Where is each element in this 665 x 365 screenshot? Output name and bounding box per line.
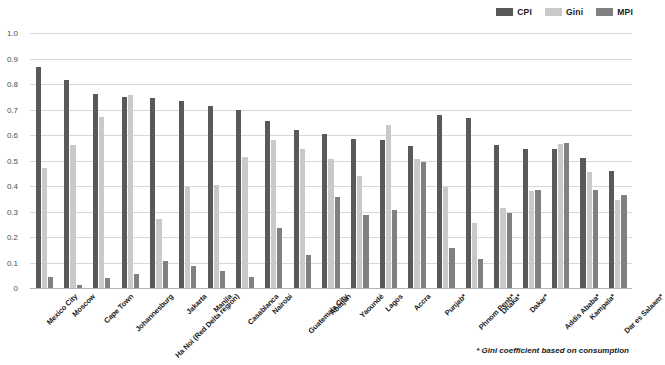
bar-gini[interactable] (443, 187, 448, 288)
legend-item-mpi[interactable]: MPI (596, 8, 633, 17)
bar-cpi[interactable] (150, 98, 155, 288)
bar-gini[interactable] (558, 144, 563, 288)
legend-swatch-icon (545, 8, 562, 16)
legend-swatch-icon (496, 8, 513, 16)
y-axis-tick-label: 0.1 (0, 258, 18, 267)
legend-item-cpi[interactable]: CPI (496, 8, 532, 17)
bar-group (517, 33, 546, 288)
bar-cpi[interactable] (322, 134, 327, 288)
bar-group (489, 33, 518, 288)
bar-cpi[interactable] (494, 145, 499, 288)
bar-mpi[interactable] (507, 213, 512, 288)
legend-swatch-icon (596, 8, 613, 16)
bar-cpi[interactable] (437, 115, 442, 288)
plot-area: 00.10.20.30.40.50.60.70.80.91.0 (30, 33, 632, 288)
bar-mpi[interactable] (77, 285, 82, 288)
bar-gini[interactable] (472, 223, 477, 288)
bar-group (30, 33, 59, 288)
bar-gini[interactable] (99, 117, 104, 288)
bar-group (87, 33, 116, 288)
bar-cpi[interactable] (208, 106, 213, 288)
bar-cpi[interactable] (93, 94, 98, 288)
x-axis-label-cell: Accra (403, 290, 432, 360)
bar-mpi[interactable] (621, 195, 626, 288)
bar-gini[interactable] (414, 159, 419, 288)
x-axis-label-cell: Nairobi (259, 290, 288, 360)
bar-cpi[interactable] (236, 110, 241, 289)
bar-mpi[interactable] (306, 255, 311, 288)
bar-gini[interactable] (328, 159, 333, 288)
y-axis-tick-label: 0.8 (0, 80, 18, 89)
bar-mpi[interactable] (249, 277, 254, 288)
bar-cpi[interactable] (294, 130, 299, 288)
x-axis-label-cell: Moscow (59, 290, 88, 360)
bar-gini[interactable] (529, 191, 534, 288)
bar-group (460, 33, 489, 288)
bar-gini[interactable] (500, 208, 505, 288)
bar-cpi[interactable] (609, 171, 614, 288)
bar-cpi[interactable] (265, 121, 270, 288)
y-axis-tick-label: 0 (0, 284, 18, 293)
bar-mpi[interactable] (105, 278, 110, 288)
bar-gini[interactable] (587, 172, 592, 288)
x-axis-label-cell: Cape Town (87, 290, 116, 360)
bar-mpi[interactable] (163, 261, 168, 288)
bar-cpi[interactable] (36, 67, 41, 288)
bar-mpi[interactable] (535, 190, 540, 288)
bar-cpi[interactable] (122, 97, 127, 288)
bar-cpi[interactable] (179, 101, 184, 288)
x-axis-label-cell: Manila (202, 290, 231, 360)
y-axis-tick-label: 0.9 (0, 54, 18, 63)
bar-mpi[interactable] (191, 266, 196, 288)
bar-mpi[interactable] (277, 228, 282, 288)
bar-cpi[interactable] (408, 146, 413, 288)
bar-gini[interactable] (128, 95, 133, 288)
bar-gini[interactable] (271, 140, 276, 288)
bar-gini[interactable] (242, 157, 247, 288)
x-axis-label-cell: Lagos (374, 290, 403, 360)
bar-gini[interactable] (357, 176, 362, 288)
bar-mpi[interactable] (564, 143, 569, 288)
bar-cpi[interactable] (380, 140, 385, 288)
bar-cpi[interactable] (580, 158, 585, 288)
x-axis-label-cell: Guatemala City (288, 290, 317, 360)
x-axis-tick-label: Dar es Salaam* (622, 292, 665, 335)
bar-group (575, 33, 604, 288)
bar-gini[interactable] (42, 168, 47, 288)
bar-gini[interactable] (185, 187, 190, 288)
y-axis-tick-label: 0.7 (0, 105, 18, 114)
bar-mpi[interactable] (220, 271, 225, 288)
bar-group (145, 33, 174, 288)
footnote: * Gini coefficient based on consumption (476, 346, 629, 355)
bar-mpi[interactable] (48, 277, 53, 288)
bar-gini[interactable] (70, 145, 75, 288)
bar-cpi[interactable] (552, 149, 557, 288)
bar-gini[interactable] (386, 125, 391, 288)
x-axis-label-cell: Abidjan (317, 290, 346, 360)
bar-mpi[interactable] (449, 248, 454, 288)
chart-legend: CPIGiniMPI (496, 5, 633, 19)
bar-gini[interactable] (156, 219, 161, 288)
legend-label: CPI (517, 8, 532, 17)
bar-cpi[interactable] (523, 149, 528, 288)
bar-gini[interactable] (300, 149, 305, 288)
bar-mpi[interactable] (478, 259, 483, 288)
bar-mpi[interactable] (392, 210, 397, 288)
bar-cpi[interactable] (466, 118, 471, 288)
bar-mpi[interactable] (593, 190, 598, 288)
bar-mpi[interactable] (421, 162, 426, 288)
bar-cpi[interactable] (64, 80, 69, 288)
bar-gini[interactable] (214, 185, 219, 288)
x-axis-label-cell: Punjab* (431, 290, 460, 360)
y-axis-tick-label: 0.4 (0, 182, 18, 191)
bar-cpi[interactable] (351, 139, 356, 288)
bar-gini[interactable] (615, 200, 620, 288)
bar-group (202, 33, 231, 288)
y-axis-tick-label: 0.3 (0, 207, 18, 216)
bar-group (59, 33, 88, 288)
x-axis-label-cell: Ha Noi (Red Delta region) (145, 290, 174, 360)
bar-mpi[interactable] (363, 215, 368, 288)
bar-mpi[interactable] (134, 274, 139, 288)
bar-mpi[interactable] (335, 197, 340, 288)
legend-item-gini[interactable]: Gini (545, 8, 583, 17)
